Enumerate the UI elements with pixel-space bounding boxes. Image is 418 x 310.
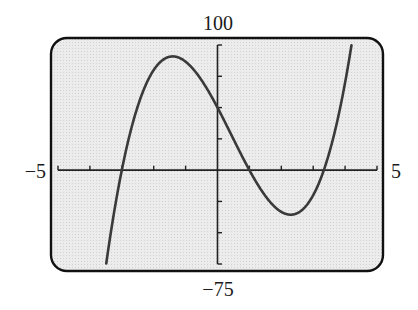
y-min-label: −75 [202,279,233,299]
graphing-calculator-window [0,0,418,310]
x-min-label: −5 [25,161,46,181]
x-max-label: 5 [391,161,401,181]
y-max-label: 100 [203,13,233,33]
